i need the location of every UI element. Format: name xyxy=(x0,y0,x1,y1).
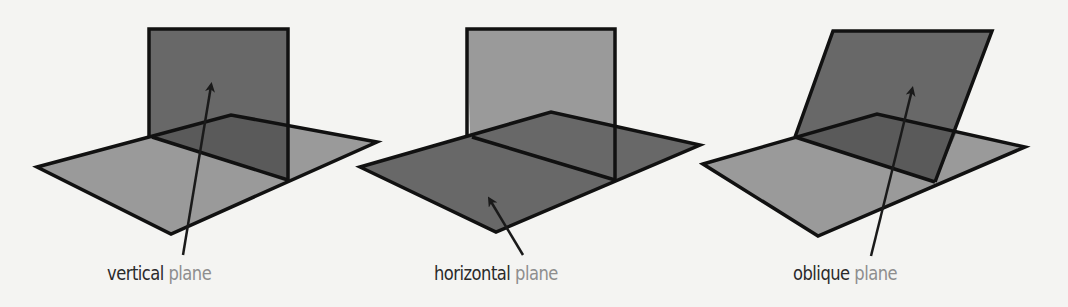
label-oblique-plane: oblique plane xyxy=(793,262,897,284)
planes-diagram xyxy=(0,0,1068,307)
label-vertical-plane: vertical plane xyxy=(107,262,211,284)
horizontal-plane xyxy=(360,112,700,232)
panel-horizontal xyxy=(360,29,700,255)
label-horizontal-plane: horizontal plane xyxy=(434,262,558,284)
panel-vertical xyxy=(37,29,377,255)
panel-oblique xyxy=(703,31,1025,256)
